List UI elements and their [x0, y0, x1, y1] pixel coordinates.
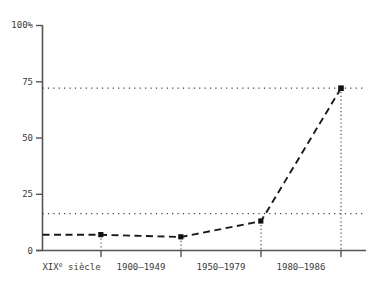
data-point-1 [178, 234, 183, 239]
series-line-valeurs [43, 88, 342, 237]
y-tick-label-0: 0 [28, 246, 33, 256]
series-markers [98, 85, 344, 239]
data-point-3 [338, 85, 344, 91]
y-tick-label-75: 75 [22, 77, 33, 87]
x-category-label-0: XIXe siècle [42, 261, 100, 273]
x-category-label-0-main: XIX [42, 262, 59, 272]
x-category-label-1: 1900–1949 [117, 262, 166, 272]
data-point-2 [258, 218, 263, 223]
x-category-label-3: 1980–1986 [277, 262, 326, 272]
y-tick-label-25: 25 [22, 189, 33, 199]
x-axis-ticks [101, 251, 341, 258]
x-category-label-0-rest: siècle [63, 262, 101, 272]
y-tick-label-100: 100% [11, 20, 33, 30]
x-category-label-2: 1950–1979 [197, 262, 246, 272]
chart-container: 0 25 50 75 100% [0, 0, 374, 281]
y-axis-ticks [36, 26, 43, 251]
line-chart: 0 25 50 75 100% [0, 0, 374, 281]
data-point-0 [98, 232, 103, 237]
y-tick-label-50: 50 [22, 133, 33, 143]
drop-lines [101, 88, 341, 250]
